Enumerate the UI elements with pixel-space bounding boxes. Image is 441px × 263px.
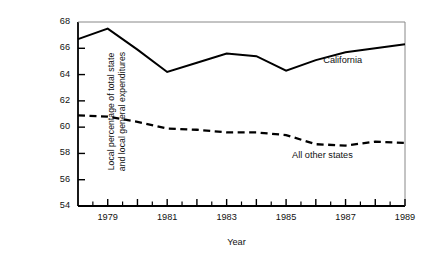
y-tick-label: 58: [48, 147, 70, 157]
y-tick-label: 68: [48, 16, 70, 26]
chart-figure: Local percentage of total state and loca…: [0, 0, 441, 263]
x-tick-label: 1981: [147, 212, 187, 222]
x-tick-label: 1987: [326, 212, 366, 222]
series-label-all-other-states: All other states: [292, 150, 353, 160]
y-tick-label: 64: [48, 69, 70, 79]
y-tick-label: 66: [48, 42, 70, 52]
series-label-california: California: [323, 55, 362, 65]
x-axis-title: Year: [0, 237, 441, 247]
y-tick-label: 60: [48, 121, 70, 131]
y-tick-label: 54: [48, 200, 70, 210]
x-tick-label: 1979: [88, 212, 128, 222]
y-tick-label: 62: [48, 95, 70, 105]
x-tick-label: 1985: [266, 212, 306, 222]
x-tick-label: 1983: [207, 212, 247, 222]
x-axis-title-text: Year: [227, 237, 246, 247]
y-axis-title: Local percentage of total state and loca…: [14, 14, 48, 209]
y-tick-label: 56: [48, 174, 70, 184]
x-tick-label: 1989: [385, 212, 425, 222]
